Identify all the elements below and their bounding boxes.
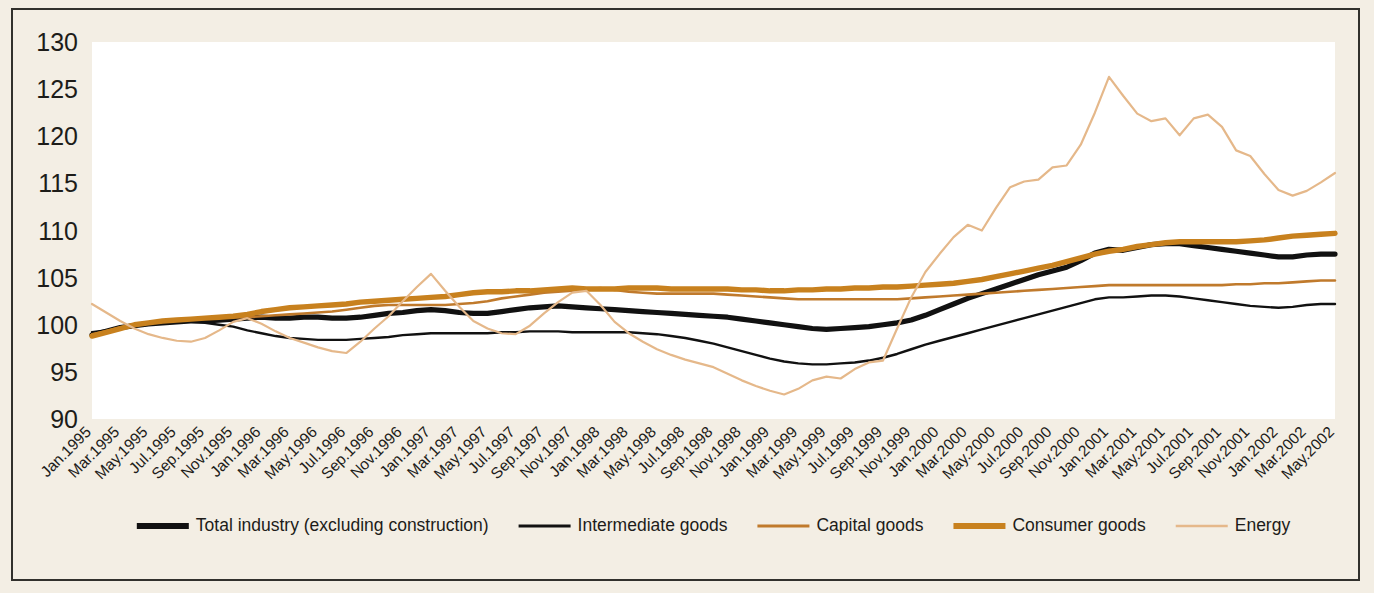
legend-label-consumer-goods: Consumer goods	[1012, 515, 1146, 535]
y-tick-label: 110	[38, 217, 78, 245]
legend-label-intermediate-goods: Intermediate goods	[578, 515, 728, 535]
chart-figure: 9095100105110115120125130 Jan.1995Mar.19…	[0, 0, 1374, 593]
legend-label-energy: Energy	[1235, 515, 1291, 535]
chart-frame: 9095100105110115120125130 Jan.1995Mar.19…	[11, 8, 1360, 581]
legend-label-capital-goods: Capital goods	[816, 515, 923, 535]
legend-label-total-industry-excluding-construction: Total industry (excluding construction)	[196, 515, 489, 535]
plot-area-background	[92, 42, 1335, 419]
chart-legend: Total industry (excluding construction)I…	[137, 515, 1291, 535]
line-chart: 9095100105110115120125130 Jan.1995Mar.19…	[13, 10, 1358, 579]
y-tick-label: 90	[50, 405, 78, 433]
y-tick-label: 125	[36, 75, 78, 103]
y-tick-label: 95	[50, 358, 78, 386]
x-axis-tick-labels: Jan.1995Mar.1995May.1995Jul.1995Sep.1995…	[37, 423, 1337, 483]
y-tick-label: 115	[38, 169, 78, 197]
y-tick-label: 130	[36, 28, 78, 56]
y-tick-label: 100	[36, 311, 78, 339]
y-tick-label: 120	[36, 122, 78, 150]
y-axis-tick-labels: 9095100105110115120125130	[36, 28, 78, 433]
y-tick-label: 105	[36, 264, 78, 292]
